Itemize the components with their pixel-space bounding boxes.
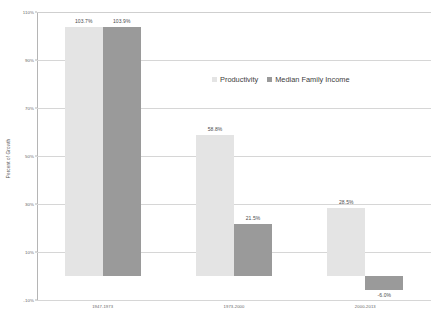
gridline xyxy=(37,300,431,301)
bar[interactable] xyxy=(196,135,234,276)
legend-entry-productivity[interactable]: Productivity xyxy=(212,75,258,84)
y-tick-mark xyxy=(35,60,37,61)
bar-value-label: 21.5% xyxy=(246,215,261,221)
y-tick-label: 10% xyxy=(25,250,34,255)
legend-label-productivity: Productivity xyxy=(220,75,258,84)
y-tick-label: 110% xyxy=(23,10,34,15)
bar[interactable] xyxy=(327,208,365,276)
bar[interactable] xyxy=(234,224,272,276)
bar[interactable] xyxy=(365,276,403,290)
gridline xyxy=(37,12,431,13)
legend-label-median-family-income: Median Family Income xyxy=(275,75,349,84)
y-tick-label: 30% xyxy=(25,202,34,207)
y-axis-title-text: Percent of Growth xyxy=(7,139,12,179)
y-tick-label: 50% xyxy=(25,154,34,159)
x-category-label: 1973-2000 xyxy=(224,304,245,309)
bar-chart: Percent of Growth -10%10%30%50%70%90%110… xyxy=(0,0,438,317)
bar[interactable] xyxy=(103,27,141,276)
y-tick-mark xyxy=(35,204,37,205)
y-tick-label: 90% xyxy=(25,58,34,63)
bar-value-label: 28.5% xyxy=(339,199,354,205)
legend-swatch-median-family-income xyxy=(267,77,272,82)
x-category-label: 2000-2013 xyxy=(355,304,376,309)
bar-value-label: 103.7% xyxy=(75,18,93,24)
y-tick-mark xyxy=(35,156,37,157)
y-tick-mark xyxy=(35,300,37,301)
legend-swatch-productivity xyxy=(212,77,217,82)
plot-area: -10%10%30%50%70%90%110% 103.7%103.9%58.8… xyxy=(37,12,431,300)
y-tick-label: 70% xyxy=(25,106,34,111)
y-axis-title: Percent of Growth xyxy=(2,0,16,317)
y-tick-mark xyxy=(35,252,37,253)
legend: Productivity Median Family Income xyxy=(212,75,350,84)
bar-value-label: -6.0% xyxy=(378,292,392,298)
y-tick-label: -10% xyxy=(23,298,34,303)
x-category-label: 1947-1973 xyxy=(92,304,113,309)
bar-value-label: 103.9% xyxy=(113,18,131,24)
bar-value-label: 58.8% xyxy=(208,126,223,132)
y-tick-mark xyxy=(35,12,37,13)
bar[interactable] xyxy=(65,27,103,276)
y-tick-mark xyxy=(35,108,37,109)
legend-entry-median-family-income[interactable]: Median Family Income xyxy=(267,75,349,84)
